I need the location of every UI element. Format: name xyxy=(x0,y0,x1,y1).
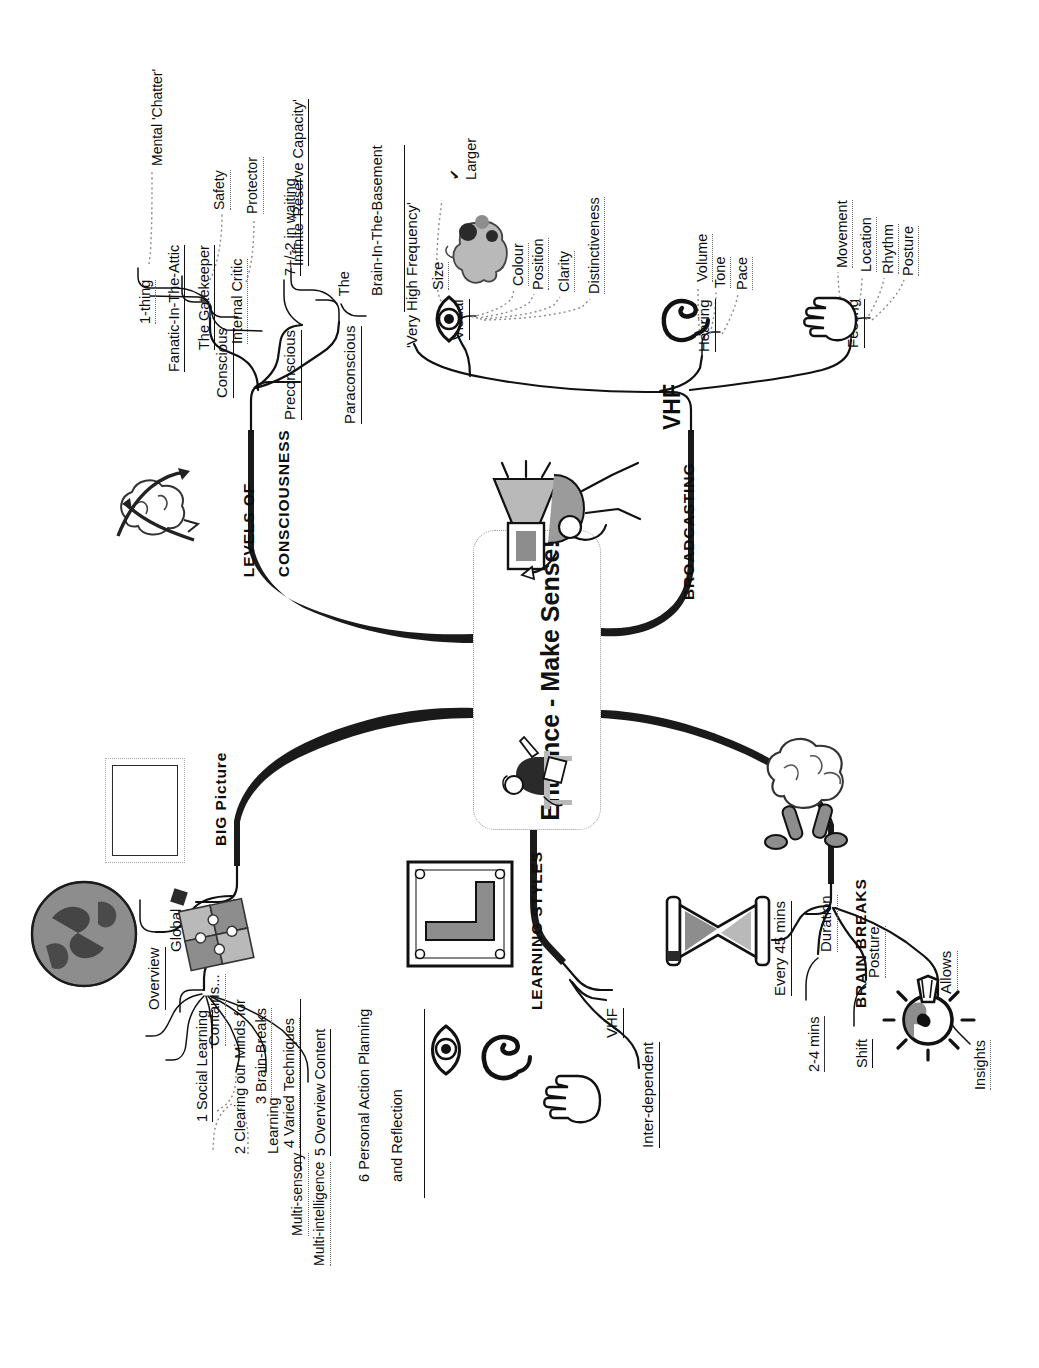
c6-line1: 6 Personal Action Planning xyxy=(356,1009,372,1182)
jigsaw-icon xyxy=(176,890,262,976)
node-1-social-learning[interactable]: 1 Social Learning xyxy=(194,1010,213,1122)
framed-picture-icon xyxy=(105,758,185,863)
hourglass-icon xyxy=(658,876,778,986)
node-2-4-mins[interactable]: 2-4 mins xyxy=(806,1016,825,1072)
brain-walking-icon xyxy=(750,730,860,860)
c2-line1: 2 Clearing our Minds for xyxy=(232,999,248,1154)
node-feeling-location[interactable]: Location xyxy=(858,217,877,272)
node-safety[interactable]: Safety xyxy=(212,170,231,210)
vhf-spine xyxy=(414,344,646,392)
node-1-thing[interactable]: 1-thing xyxy=(137,280,156,324)
leader-mental-chatter xyxy=(149,170,152,264)
node-duration[interactable]: Duration xyxy=(818,895,838,952)
node-shift[interactable]: Shift xyxy=(854,1039,873,1068)
node-feeling-rhythm[interactable]: Rhythm xyxy=(880,224,899,274)
node-visual-larger[interactable]: ✔ Larger xyxy=(430,138,495,196)
learningstyles-trunk xyxy=(563,963,612,990)
node-multi-intelligence[interactable]: Multi-intelligence xyxy=(312,1162,331,1266)
node-the-gatekeeper[interactable]: The Gatekeeper xyxy=(196,245,215,350)
node-multi-sensory[interactable]: Multi-sensory xyxy=(290,1153,309,1236)
hand-icon xyxy=(800,290,858,352)
node-overview[interactable]: Overview xyxy=(146,947,166,1010)
node-visual-position[interactable]: Position xyxy=(530,238,549,290)
bitb-line2: Brain-In-The-Basement xyxy=(369,145,385,296)
node-mental-chatter[interactable]: Mental 'Chatter' xyxy=(150,69,166,166)
framed-picture-inner xyxy=(112,765,178,856)
node-6-personal-action-planning[interactable]: 6 Personal Action Planning and Reflectio… xyxy=(340,1009,425,1198)
node-hearing-volume[interactable]: Volume xyxy=(694,234,713,282)
node-vhf-broadcasting[interactable]: VHF xyxy=(660,384,686,430)
eye-icon xyxy=(434,292,478,350)
node-paraconscious[interactable]: Paraconscious xyxy=(342,326,362,424)
loc-line1: LEVELS OF xyxy=(240,483,257,577)
brain-arrows-icon xyxy=(100,460,204,560)
loc-line2: CONSCIOUSNESS xyxy=(275,429,292,577)
feeling-rhythm xyxy=(866,278,884,320)
ear-icon xyxy=(658,292,714,348)
node-hearing-tone[interactable]: Tone xyxy=(712,257,731,288)
node-brain-in-the-basement[interactable]: The Brain-In-The-Basement xyxy=(320,145,405,312)
node-feeling-posture[interactable]: Posture xyxy=(900,226,919,276)
c2-line2: Learning xyxy=(265,1097,281,1153)
hand-icon xyxy=(540,1068,602,1134)
main-branch-big-picture xyxy=(234,708,473,866)
c6-line2: and Reflection xyxy=(389,1089,405,1182)
branch-label-big-picture[interactable]: BIG Picture xyxy=(212,752,229,846)
node-protector[interactable]: Protector xyxy=(245,157,264,214)
person-at-desk-icon xyxy=(495,736,587,822)
node-internal-critic[interactable]: Internal Critic xyxy=(229,259,248,344)
megaphone-tv-icon xyxy=(487,424,637,592)
visual-colour xyxy=(472,290,514,317)
node-infinite-reserve-capacity[interactable]: Infinite 'Reserve Capacity' xyxy=(290,99,309,266)
mind-map-canvas: Entrance - Make Sense! LEVELS OF CONSCIO… xyxy=(0,0,1039,1368)
lightbulb-icon xyxy=(882,962,986,1062)
node-ls-vhf[interactable]: VHF xyxy=(604,1008,624,1038)
branch-label-learning-styles[interactable]: LEARNING STYLES xyxy=(528,851,545,1010)
overview-global xyxy=(140,900,156,932)
node-3-brain-breaks[interactable]: 3 Brain-Breaks xyxy=(253,1008,272,1104)
node-very-high-frequency-note: 'Very High Frequency' xyxy=(404,202,421,348)
duration-2to4 xyxy=(806,958,818,1000)
node-visual-clarity[interactable]: Clarity xyxy=(556,251,575,292)
node-feeling-movement[interactable]: Movement xyxy=(834,200,853,268)
hearing-pace xyxy=(722,294,738,334)
node-inter-dependent[interactable]: Inter-dependent xyxy=(640,1042,660,1148)
node-fanatic-in-the-attic[interactable]: Fanatic-In-The-Attic xyxy=(166,245,185,372)
node-5-overview-content[interactable]: 5 Overview Content xyxy=(312,1029,331,1156)
branch-label-levels-of-consciousness[interactable]: LEVELS OF CONSCIOUSNESS xyxy=(222,429,310,598)
bitb-line1: The xyxy=(336,271,352,296)
globe-icon xyxy=(28,878,140,990)
node-preconscious[interactable]: Preconscious xyxy=(282,330,302,420)
feeling-posture xyxy=(872,280,904,320)
eye-icon xyxy=(430,1020,476,1082)
l-plate-icon xyxy=(402,856,518,972)
branch-label-broadcasting[interactable]: BROADCASTING xyxy=(680,463,697,600)
ear-icon xyxy=(478,1028,536,1086)
brain-colour-icon xyxy=(446,206,524,292)
visual-distinctiveness xyxy=(484,299,590,320)
node-visual-distinctiveness[interactable]: Distinctiveness xyxy=(586,197,605,294)
larger-label: Larger xyxy=(463,138,479,180)
node-4-varied-techniques[interactable]: 4 Varied Techniques xyxy=(281,1018,300,1148)
node-hearing-pace[interactable]: Pace xyxy=(734,257,753,290)
check-mark-icon: ✔ xyxy=(447,169,462,180)
